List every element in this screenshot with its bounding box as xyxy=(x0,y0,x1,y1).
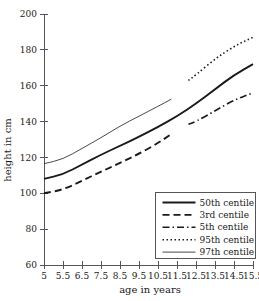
x-tick-label: 12.5 xyxy=(186,271,206,281)
x-tick-label: 14.5 xyxy=(224,271,244,281)
series-line-50th-centile xyxy=(44,64,253,179)
legend-label: 50th centile xyxy=(200,198,255,208)
y-tick-label: 140 xyxy=(20,117,37,127)
x-tick-label: 15.5 xyxy=(243,271,259,281)
legend-label: 5th centile xyxy=(200,222,249,232)
x-tick-label: 11.5 xyxy=(167,271,187,281)
x-tick-label: 5 xyxy=(41,271,47,281)
x-tick-label: 5.5 xyxy=(56,271,71,281)
y-tick-label: 80 xyxy=(26,224,38,234)
y-tick-label: 200 xyxy=(20,9,37,19)
x-tick-label: 7.5 xyxy=(94,271,109,281)
x-tick-label: 9.5 xyxy=(132,271,147,281)
legend-label: 3rd centile xyxy=(200,210,250,220)
series-line-5th-centile xyxy=(188,93,253,124)
growth-chart: 6080100120140160180200 55.56.57.58.59.51… xyxy=(0,0,259,301)
y-tick-label: 120 xyxy=(20,153,37,163)
y-tick-label: 180 xyxy=(20,45,37,55)
x-tick-label: 10.5 xyxy=(148,271,168,281)
series-line-97th-centile xyxy=(44,99,171,164)
x-tick-label: 6.5 xyxy=(75,271,90,281)
y-tick-label: 60 xyxy=(26,260,38,270)
series-line-3rd-centile xyxy=(44,134,171,193)
x-tick-label: 8.5 xyxy=(113,271,128,281)
y-axis-title: height in cm xyxy=(2,118,13,182)
y-tick-label: 100 xyxy=(20,188,37,198)
chart-legend: 50th centile3rd centile5th centile95th c… xyxy=(156,193,256,259)
legend-label: 97th centile xyxy=(200,247,255,257)
series-line-95th-centile xyxy=(188,37,253,80)
y-tick-label: 160 xyxy=(20,81,37,91)
series-layer xyxy=(44,37,253,193)
x-tick-label: 13.5 xyxy=(205,271,225,281)
legend-label: 95th centile xyxy=(200,235,255,245)
chart-canvas: 6080100120140160180200 55.56.57.58.59.51… xyxy=(0,0,259,301)
x-axis-ticks: 55.56.57.58.59.510.511.512.513.514.515.5 xyxy=(41,261,259,281)
x-axis-title: age in years xyxy=(119,284,181,295)
